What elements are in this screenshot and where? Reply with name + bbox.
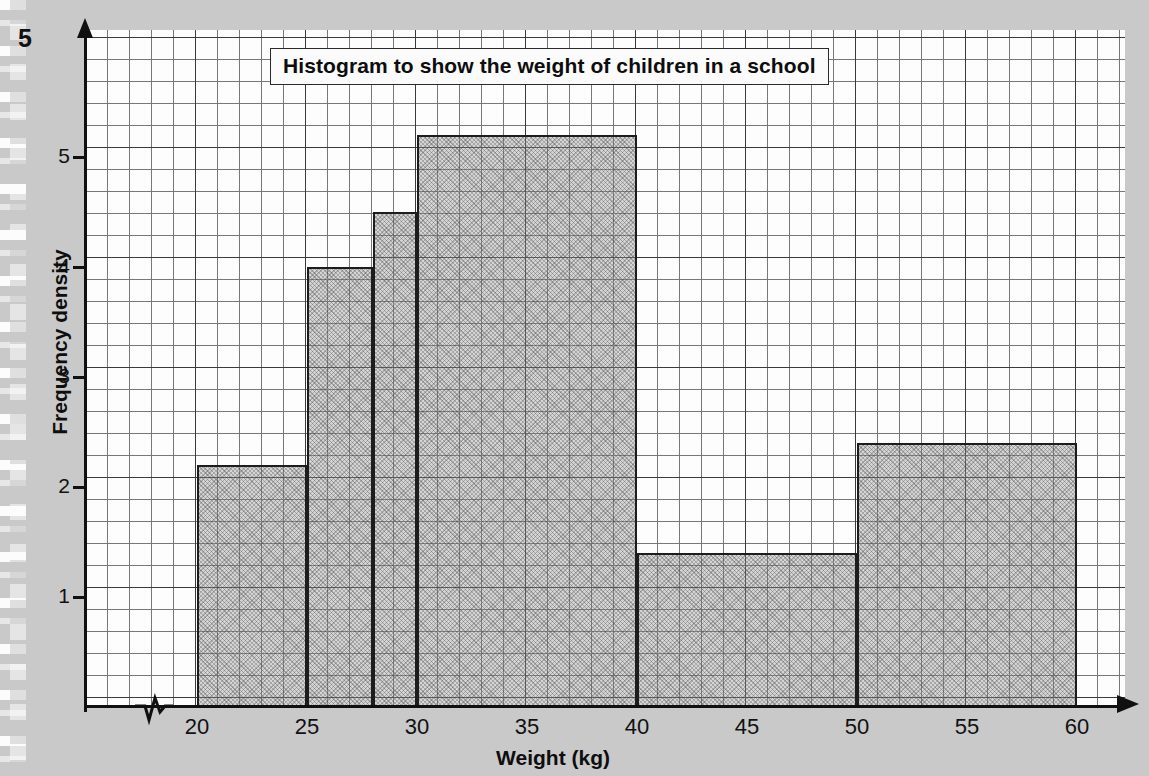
y-axis-tick-mark [73,376,86,379]
histogram-bar [417,135,637,707]
y-axis-tick-mark [73,156,86,159]
axis-break-zigzag-icon [133,690,173,726]
y-axis-tick-label: 1 [30,584,70,608]
x-axis-line [84,705,1126,708]
x-axis-tick-label: 40 [625,714,649,740]
histogram-bar [637,553,857,707]
question-number: 5 [18,24,32,53]
histogram-bars [85,30,1125,707]
x-axis-tick-label: 55 [955,714,979,740]
y-axis-tick-mark [73,596,86,599]
x-axis-label: Weight (kg) [33,746,1073,770]
torn-paper-edge [0,0,26,776]
x-axis-tick-label: 45 [735,714,759,740]
x-axis-tick-label: 20 [185,714,209,740]
x-axis-arrow-icon [1117,695,1139,713]
y-axis-tick-label: 5 [30,144,70,168]
x-axis-tick-label: 50 [845,714,869,740]
y-axis-tick-label: 2 [30,474,70,498]
y-axis-label: Frequency density [48,249,72,435]
histogram-bar [373,212,417,707]
y-axis-tick-mark [73,486,86,489]
page-background: 5 12345 202530354045505560 Histogram to … [0,0,1149,776]
x-axis-tick-label: 30 [405,714,429,740]
histogram-bar [857,443,1077,707]
chart-title: Histogram to show the weight of children… [270,48,829,85]
histogram-bar [197,465,307,707]
x-axis-tick-label: 35 [515,714,539,740]
y-axis-line [84,36,87,712]
x-axis-tick-label: 60 [1065,714,1089,740]
y-axis-arrow-icon [77,18,93,38]
y-axis-tick-mark [73,266,86,269]
x-axis-tick-label: 25 [295,714,319,740]
histogram-bar [307,267,373,707]
histogram-chart: 12345 202530354045505560 Histogram to sh… [85,30,1125,707]
